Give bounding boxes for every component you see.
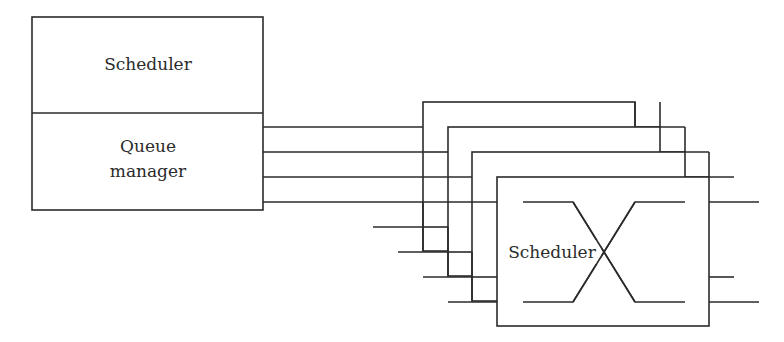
left-block: Scheduler Queue manager — [32, 17, 263, 210]
switch-stack: Scheduler — [373, 102, 759, 326]
scheduler-label: Scheduler — [104, 54, 193, 74]
front-scheduler-label: Scheduler — [508, 242, 597, 262]
queue-label: Queue — [120, 136, 176, 156]
manager-label: manager — [110, 161, 187, 181]
diagram-canvas: Scheduler Queue manager — [0, 0, 784, 342]
